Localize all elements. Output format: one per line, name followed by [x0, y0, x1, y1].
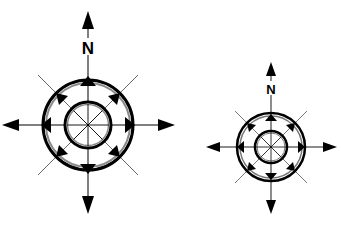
east-arrow-icon [323, 142, 337, 152]
south-arrow-icon [82, 196, 94, 214]
south-arrow-icon [266, 200, 276, 214]
north-arrow-icon [82, 11, 94, 29]
north-label: N [266, 82, 275, 97]
compass-figure: N [0, 0, 341, 233]
west-arrow-icon [2, 119, 19, 131]
compass-small: N [206, 62, 337, 214]
west-arrow-icon [206, 142, 220, 152]
ring-arrow-s-icon [265, 173, 277, 180]
ring-arrow-n-icon [265, 114, 277, 121]
east-arrow-icon [158, 119, 175, 131]
north-label: N [82, 39, 94, 58]
north-arrow-icon [266, 62, 276, 76]
compass-large: N [2, 11, 175, 214]
inner-cross [256, 132, 286, 162]
